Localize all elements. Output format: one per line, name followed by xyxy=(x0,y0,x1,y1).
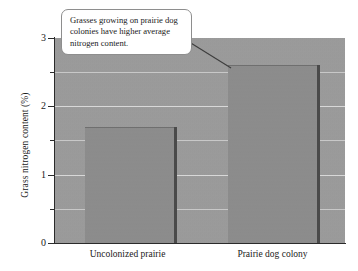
y-tick-0 xyxy=(48,243,54,244)
bar-prairie-dog-colony[interactable] xyxy=(228,65,320,243)
y-axis-title: Grass nitrogen content (%) xyxy=(20,50,30,240)
bar-top-edge xyxy=(228,65,320,66)
y-tick-label-0: 0 xyxy=(22,237,46,248)
bar-chart: Grass nitrogen content (%) 3 2 1 xyxy=(0,0,358,271)
y-tick-label-1: 1 xyxy=(22,169,46,180)
callout-leader-line xyxy=(186,40,236,72)
y-tick-3 xyxy=(48,38,54,39)
bar-face xyxy=(85,127,177,243)
bar-right-edge xyxy=(317,65,320,243)
y-axis-line xyxy=(54,37,55,244)
y-tick-2.5 xyxy=(50,72,54,73)
y-tick-label-3: 3 xyxy=(22,32,46,43)
bar-right-edge xyxy=(174,127,177,243)
y-tick-1.5 xyxy=(50,140,54,141)
x-axis-line xyxy=(54,243,346,244)
bar-face xyxy=(228,65,320,243)
y-tick-2 xyxy=(48,106,54,107)
callout-annotation: Grasses growing on prairie dog colonies … xyxy=(61,9,192,55)
y-tick-label-2: 2 xyxy=(22,100,46,111)
y-tick-0.5 xyxy=(50,209,54,210)
bar-uncolonized-prairie[interactable] xyxy=(85,127,177,243)
x-category-label-prairie-dog-colony: Prairie dog colony xyxy=(200,249,345,259)
x-category-label-uncolonized-prairie: Uncolonized prairie xyxy=(55,249,200,259)
y-tick-1 xyxy=(48,175,54,176)
bar-top-edge xyxy=(85,127,177,128)
